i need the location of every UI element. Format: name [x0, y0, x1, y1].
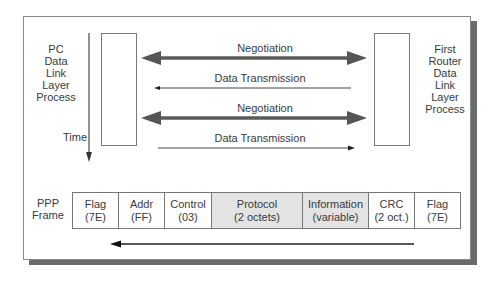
data-transmission-left-arrow-icon	[154, 86, 351, 90]
negotiation-arrow-icon	[141, 51, 367, 65]
arrows-layer	[0, 0, 493, 281]
negotiation-arrow-icon	[141, 111, 367, 125]
frame-direction-arrow-icon	[110, 241, 414, 248]
time-axis-arrow-icon	[86, 33, 92, 162]
data-transmission-right-arrow-icon	[158, 146, 355, 151]
